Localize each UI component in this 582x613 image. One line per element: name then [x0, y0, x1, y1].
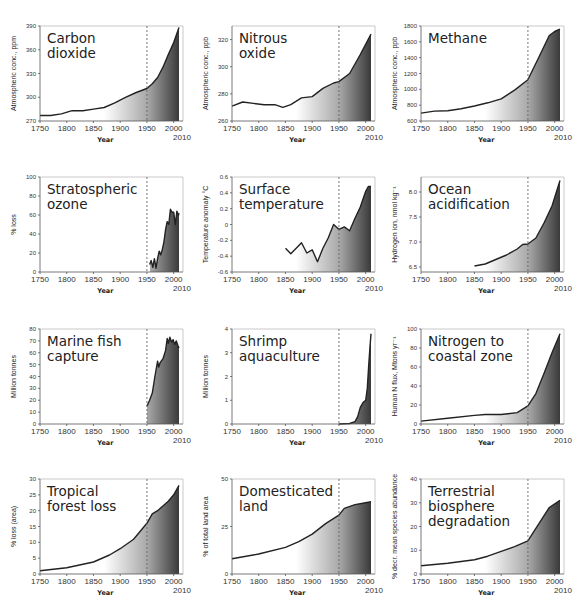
x-tick-label: 1850	[466, 427, 484, 436]
x-tick-label: 1850	[85, 275, 103, 284]
chart-panel-7: 0102030405060708017501800185019001950200…	[10, 326, 191, 447]
x-tick-label: 1800	[58, 275, 76, 284]
x-axis-label: Year	[96, 287, 114, 295]
y-tick-label: 6.5	[409, 264, 418, 270]
x-tick-label: 1750	[223, 427, 241, 436]
y-axis-label: Million tonnes	[202, 355, 209, 398]
x-tick-label: 2000	[165, 427, 183, 436]
x-tick-label: 1750	[412, 124, 430, 133]
y-tick-label: 80	[29, 326, 36, 332]
chart-panel-8: 012341750180018501900195020002010YearMil…	[202, 326, 383, 447]
y-axis-label: % decr. mean species abundance	[391, 474, 399, 579]
y-tick-label: 50	[221, 476, 228, 482]
y-tick-label: 25	[29, 492, 36, 498]
y-tick-label: 15	[29, 524, 36, 530]
x-tick-label: 1950	[519, 275, 537, 284]
x-tick-label: 1900	[111, 577, 129, 586]
x-tick-label: 1750	[223, 577, 241, 586]
chart-panel-6: 6.57.07.58.01750180018501900195020002010…	[391, 177, 572, 295]
y-tick-label: 60	[29, 212, 36, 218]
y-tick-label: 300	[218, 64, 229, 70]
x-tick-label: 1900	[492, 124, 510, 133]
x-tick-label: 2000	[165, 124, 183, 133]
panel-title: Shrimpaquaculture	[239, 333, 320, 364]
x-tick-label-2010: 2010	[554, 133, 572, 142]
y-axis-label: Atmospheric conc., ppb	[202, 37, 210, 110]
x-tick-label: 1800	[250, 124, 268, 133]
panel-title: Terrestrialbiospheredegradation	[427, 483, 510, 529]
y-tick-label: 390	[26, 23, 37, 29]
x-axis-label: Year	[96, 589, 114, 597]
panel-title: Carbondioxide	[47, 30, 96, 61]
x-tick-label: 1900	[492, 577, 510, 586]
x-tick-label: 1950	[330, 124, 348, 133]
panel-title: Domesticatedland	[239, 483, 333, 514]
x-axis-label: Year	[477, 136, 495, 144]
x-tick-label: 1850	[85, 427, 103, 436]
x-axis-label: Year	[288, 287, 306, 295]
x-tick-label: 1850	[277, 124, 295, 133]
panel-title: Marine fishcapture	[47, 333, 121, 364]
x-axis-label: Year	[96, 136, 114, 144]
y-tick-label: 80	[29, 193, 36, 199]
x-axis-label: Year	[288, 439, 306, 447]
x-tick-label: 1750	[31, 124, 49, 133]
y-tick-label: 1800	[404, 23, 418, 29]
x-tick-label: 1950	[138, 427, 156, 436]
x-tick-label: 1750	[31, 275, 49, 284]
x-tick-label-2010: 2010	[173, 586, 191, 595]
y-tick-label: 20	[410, 524, 417, 530]
y-tick-label: 0.6	[220, 174, 229, 180]
x-tick-label: 1900	[492, 427, 510, 436]
y-tick-label: 1	[225, 397, 229, 403]
x-tick-label: 1850	[277, 577, 295, 586]
x-tick-label: 2000	[546, 427, 564, 436]
x-tick-label: 1900	[111, 124, 129, 133]
x-tick-label: 1950	[519, 427, 537, 436]
y-tick-label: 30	[410, 500, 417, 506]
x-tick-label-2010: 2010	[365, 586, 383, 595]
x-tick-label-2010: 2010	[365, 436, 383, 445]
y-tick-label: 0	[225, 222, 229, 228]
x-axis-label: Year	[477, 589, 495, 597]
x-tick-label: 1900	[111, 275, 129, 284]
x-tick-label: 1900	[303, 577, 321, 586]
x-tick-label: 2000	[165, 577, 183, 586]
x-tick-label: 1750	[412, 577, 430, 586]
x-tick-label-2010: 2010	[554, 586, 572, 595]
y-tick-label: 60	[29, 350, 36, 356]
x-tick-label-2010: 2010	[554, 436, 572, 445]
x-tick-label: 1800	[58, 577, 76, 586]
y-axis-label: % loss	[10, 214, 17, 235]
x-axis-label: Year	[288, 136, 306, 144]
chart-panel-5: -0.6-0.4-0.200.20.40.6175018001850190019…	[202, 174, 383, 295]
x-tick-label: 1950	[330, 275, 348, 284]
y-tick-label: 60	[410, 364, 417, 370]
y-tick-label: 30	[29, 476, 36, 482]
y-tick-label: 7.5	[409, 214, 418, 220]
y-tick-label: 330	[26, 71, 37, 77]
y-tick-label: 7.0	[409, 239, 418, 245]
y-tick-label: 1400	[404, 55, 418, 61]
x-tick-label: 2000	[546, 275, 564, 284]
y-tick-label: 40	[29, 374, 36, 380]
chart-panel-1: 2703003303603901750180018501900195020002…	[10, 23, 191, 144]
y-tick-label: 10	[29, 539, 36, 545]
panel-title: Nitrogen tocoastal zone	[428, 333, 513, 364]
x-tick-label: 1950	[138, 124, 156, 133]
x-tick-label: 1800	[439, 577, 457, 586]
x-tick-label: 1800	[250, 275, 268, 284]
y-tick-label: 40	[29, 231, 36, 237]
y-tick-label: 320	[218, 37, 229, 43]
x-tick-label: 1900	[111, 427, 129, 436]
y-tick-label: 40	[410, 476, 417, 482]
y-tick-label: 4	[225, 326, 229, 332]
x-tick-label: 2000	[357, 275, 375, 284]
chart-panel-11: 025501750180018501900195020002010Year% o…	[202, 476, 383, 597]
y-axis-label: Temperature anomaly °C	[202, 186, 210, 264]
y-tick-label: 100	[407, 326, 418, 332]
chart-panel-4: 0204060801001750180018501900195020002010…	[10, 174, 191, 295]
panel-title: Tropicalforest loss	[46, 483, 116, 514]
y-tick-label: 30	[29, 385, 36, 391]
x-tick-label: 1850	[466, 124, 484, 133]
